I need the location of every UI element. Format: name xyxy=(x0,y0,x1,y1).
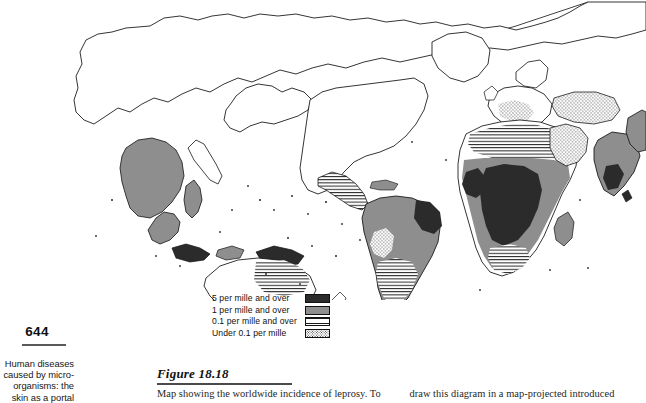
region-central-asia xyxy=(552,92,620,124)
region-china-east xyxy=(120,138,184,218)
running-head-line-3: skin as a portal xyxy=(0,392,74,403)
legend-label-2: 0.1 per mille and over xyxy=(212,316,297,328)
land-greenland xyxy=(432,32,490,82)
legend-label-1: 1 per mille and over xyxy=(212,305,289,317)
folio-rule xyxy=(22,344,66,346)
region-middle-east xyxy=(550,124,588,166)
land-north-america xyxy=(300,78,428,194)
legend-row-2: 0.1 per mille and over xyxy=(212,316,330,328)
land-japan xyxy=(188,140,222,184)
legend-label-0: 5 per mille and over xyxy=(212,293,289,305)
region-indonesia-2 xyxy=(216,246,244,260)
running-head-line-0: Human diseases xyxy=(0,358,74,369)
figure-number: Figure 18.18 xyxy=(157,366,646,381)
running-head-line-2: organisms: the xyxy=(0,380,74,391)
caption-rule xyxy=(157,383,292,385)
running-head-line-1: caused by micro- xyxy=(0,369,74,380)
legend-swatch-horizontal-lines xyxy=(305,317,330,326)
world-map-leprosy-incidence xyxy=(60,0,646,300)
land-caribbean xyxy=(370,180,398,190)
region-indonesia-1 xyxy=(172,244,210,262)
region-philippines xyxy=(184,180,202,218)
figure-caption-block: Figure 18.18 Map showing the worldwide i… xyxy=(157,366,646,400)
legend-row-3: Under 0.1 per mille xyxy=(212,328,330,340)
region-madagascar xyxy=(554,212,574,246)
land-new-zealand xyxy=(332,292,346,300)
land-sri-lanka xyxy=(622,190,632,202)
figure-map xyxy=(60,0,646,300)
map-landmasses xyxy=(64,2,646,300)
legend-swatch-solid-gray xyxy=(305,306,330,315)
figure-caption-text: Map showing the worldwide incidence of l… xyxy=(157,388,646,400)
page-number: 644 xyxy=(0,324,74,339)
legend-swatch-solid-dark xyxy=(305,294,330,303)
legend-swatch-stipple-dots xyxy=(305,329,330,338)
legend-row-1: 1 per mille and over xyxy=(212,305,330,317)
region-southern-africa-lines xyxy=(488,244,530,274)
incidence-legend: 5 per mille and over 1 per mille and ove… xyxy=(212,293,330,339)
land-scandinavia xyxy=(516,60,548,88)
region-southern-south-america xyxy=(376,258,418,300)
legend-label-3: Under 0.1 per mille xyxy=(212,328,287,340)
legend-row-0: 5 per mille and over xyxy=(212,293,330,305)
running-head: Human diseases caused by micro- organism… xyxy=(0,358,74,403)
